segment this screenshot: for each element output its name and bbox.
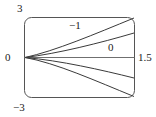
y-axis-min-label: −3 (13, 102, 25, 113)
x-axis-max-label: 1.5 (138, 52, 152, 63)
y-axis-zero-label: 0 (5, 52, 11, 63)
curve-label-neg-one: −1 (69, 20, 81, 31)
y-axis-max-label: 3 (17, 3, 23, 14)
curve-label-zero: 0 (108, 42, 114, 53)
plot-canvas (0, 0, 156, 117)
plot-figure: 3 −3 0 1.5 −1 0 (0, 0, 156, 117)
